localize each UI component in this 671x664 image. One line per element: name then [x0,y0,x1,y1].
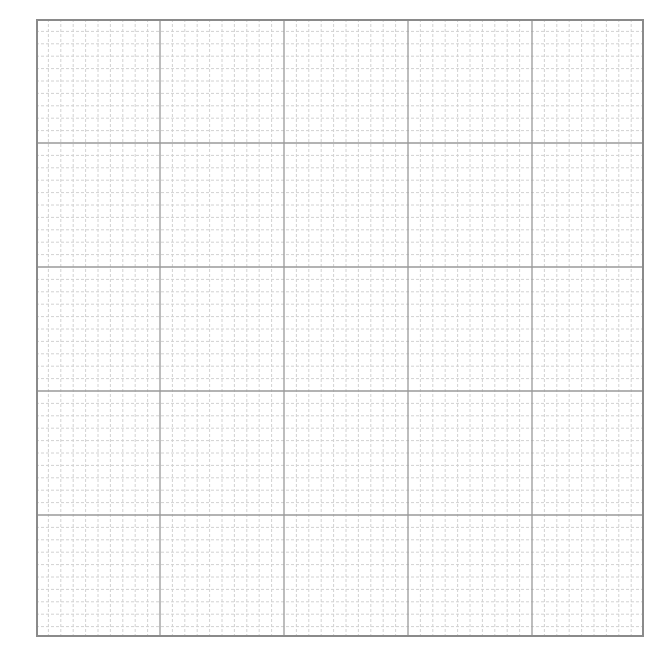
grid-canvas [36,19,644,637]
graph-paper-grid [36,19,644,637]
grid-border [37,20,643,636]
